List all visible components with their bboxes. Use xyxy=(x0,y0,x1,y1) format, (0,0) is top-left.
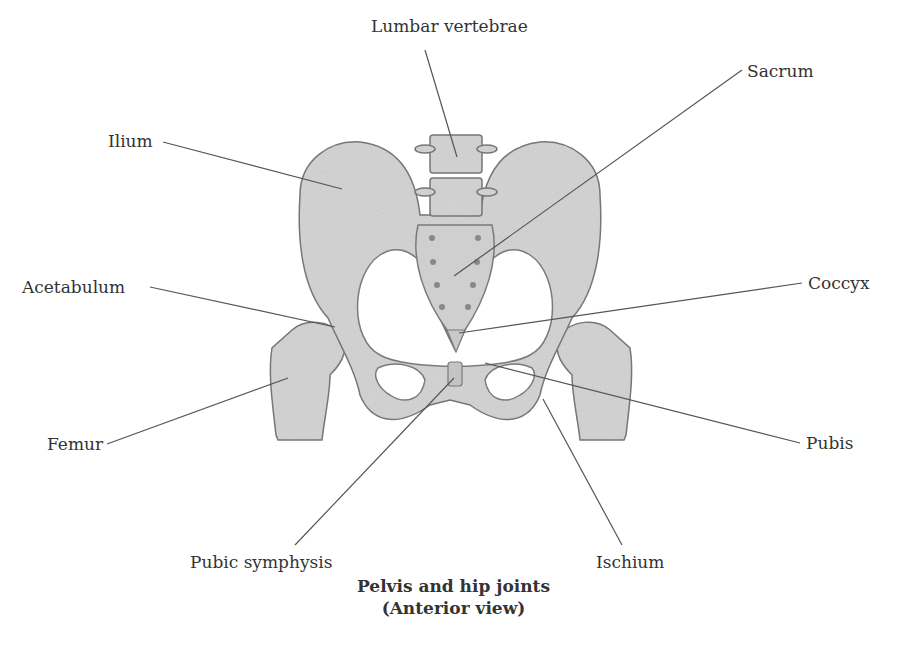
label-femur: Femur xyxy=(47,436,103,453)
label-ischium: Ischium xyxy=(596,554,664,571)
label-pubic-symphysis: Pubic symphysis xyxy=(190,554,332,571)
label-pubis: Pubis xyxy=(806,435,853,452)
label-ilium: Ilium xyxy=(108,133,153,150)
figure-caption-title: Pelvis and hip joints xyxy=(0,575,907,597)
label-sacrum: Sacrum xyxy=(747,63,814,80)
left-femur xyxy=(270,322,345,440)
label-coccyx: Coccyx xyxy=(808,275,869,292)
right-femur xyxy=(557,322,632,440)
pelvis-illustration xyxy=(0,0,907,648)
lumbar-vertebra-lower xyxy=(430,178,482,216)
label-lumbar-vertebrae: Lumbar vertebrae xyxy=(371,18,528,35)
leader-femur xyxy=(107,378,288,444)
leader-acetabulum xyxy=(150,287,335,327)
label-acetabulum: Acetabulum xyxy=(22,279,125,296)
figure-caption-subtitle: (Anterior view) xyxy=(0,597,907,619)
